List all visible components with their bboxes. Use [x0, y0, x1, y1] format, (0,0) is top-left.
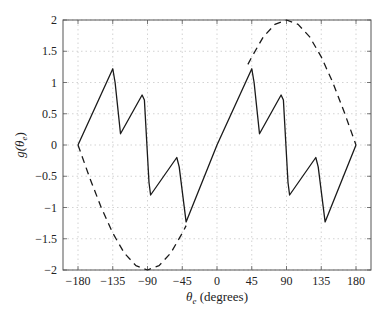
y-tick-label: −2	[44, 263, 57, 277]
x-tick-label: −135	[100, 274, 125, 288]
x-tick-label: −180	[66, 274, 91, 288]
y-tick-label: 1	[51, 76, 57, 90]
y-axis-label-close: )	[12, 132, 27, 136]
y-tick-label: −0.5	[35, 169, 57, 183]
chart-canvas: −180−135−90−4504590135180 −2−1.5−1−0.500…	[0, 0, 392, 317]
y-tick-label: −1.5	[35, 232, 57, 246]
x-tick-labels: −180−135−90−4504590135180	[66, 274, 365, 288]
x-axis-label: θe (degrees)	[186, 289, 248, 306]
x-axis-label-units: (degrees)	[196, 289, 248, 304]
y-tick-label: −1	[44, 201, 57, 215]
y-tick-label: 0.5	[42, 107, 57, 121]
y-tick-label: 0	[51, 138, 57, 152]
x-tick-label: 45	[246, 274, 258, 288]
y-tick-labels: −2−1.5−1−0.500.511.52	[35, 13, 57, 277]
x-tick-label: −45	[173, 274, 192, 288]
y-tick-label: 2	[51, 13, 57, 27]
x-tick-label: 90	[281, 274, 293, 288]
y-axis-label: g(θe)	[12, 132, 29, 158]
x-tick-label: 135	[312, 274, 330, 288]
y-axis-label-symbol: g(θ	[12, 140, 27, 158]
x-tick-label: 180	[347, 274, 365, 288]
solid-g-line	[78, 69, 356, 222]
y-tick-label: 1.5	[42, 44, 57, 58]
x-tick-label: 0	[214, 274, 220, 288]
dashed-envelope-line	[78, 145, 186, 270]
x-tick-label: −90	[138, 274, 157, 288]
